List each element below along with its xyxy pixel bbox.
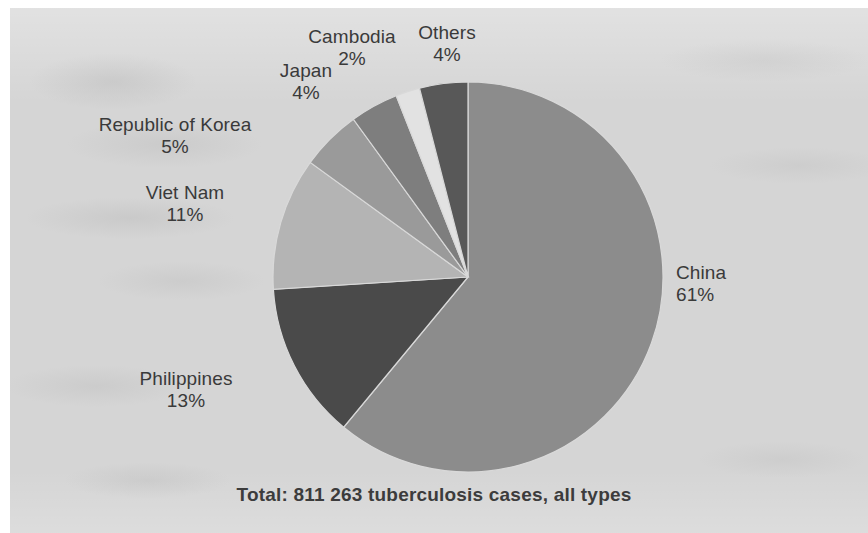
pie-label-republic-of-korea-percent: 5% xyxy=(65,136,285,158)
pie-label-viet-nam: Viet Nam 11% xyxy=(75,182,295,226)
pie-label-republic-of-korea: Republic of Korea 5% xyxy=(65,114,285,158)
screenshot-page: China 61% Philippines 13% Viet Nam 11% R… xyxy=(0,0,868,533)
pie-label-japan-percent: 4% xyxy=(196,82,416,104)
pie-chart-svg xyxy=(0,0,868,533)
pie-label-china-percent: 61% xyxy=(676,284,726,306)
pie-chart-figure: China 61% Philippines 13% Viet Nam 11% R… xyxy=(0,0,868,533)
pie-label-philippines-percent: 13% xyxy=(76,390,296,412)
chart-total-caption: Total: 811 263 tuberculosis cases, all t… xyxy=(0,484,868,506)
pie-label-china: China 61% xyxy=(676,262,726,306)
pie-label-republic-of-korea-name: Republic of Korea xyxy=(65,114,285,136)
pie-label-others-percent: 4% xyxy=(337,44,557,66)
pie-label-others-name: Others xyxy=(337,22,557,44)
pie-label-philippines-name: Philippines xyxy=(76,368,296,390)
pie-label-china-name: China xyxy=(676,262,726,284)
pie-label-viet-nam-percent: 11% xyxy=(75,204,295,226)
pie-label-viet-nam-name: Viet Nam xyxy=(75,182,295,204)
pie-slice-group xyxy=(273,82,663,472)
pie-label-others: Others 4% xyxy=(337,22,557,66)
pie-label-philippines: Philippines 13% xyxy=(76,368,296,412)
